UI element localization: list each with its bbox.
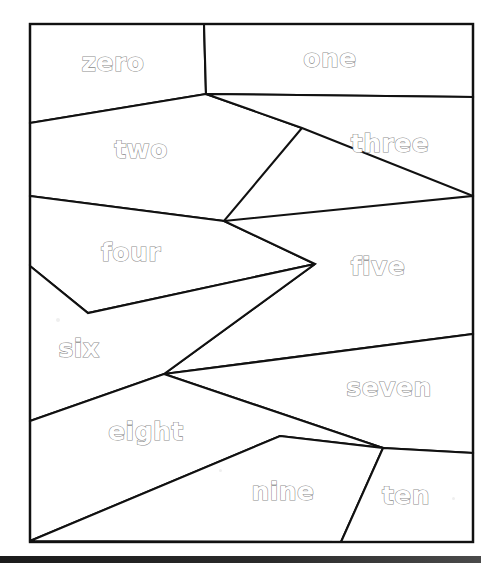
region-label-seven: seven	[346, 373, 431, 402]
region-label-two: two	[114, 135, 168, 164]
polygon-map-figure: zeroonetwothreefourfivesixseveneightnine…	[0, 0, 481, 566]
bottom-edge-bar	[0, 556, 481, 563]
polygon-map-canvas: zeroonetwothreefourfivesixseveneightnine…	[0, 0, 481, 566]
region-label-one: one	[303, 44, 356, 73]
region-label-four: four	[101, 238, 161, 267]
region-label-eight: eight	[108, 417, 184, 446]
paper-speck	[219, 469, 222, 472]
region-label-zero: zero	[81, 48, 144, 77]
region-shape-group	[30, 24, 473, 542]
paper-speck	[56, 318, 60, 322]
region-label-ten: ten	[382, 481, 430, 510]
region-label-nine: nine	[251, 477, 314, 506]
paper-speck	[452, 497, 455, 500]
region-label-five: five	[351, 252, 406, 281]
region-label-six: six	[58, 334, 99, 363]
region-label-three: three	[351, 129, 430, 158]
